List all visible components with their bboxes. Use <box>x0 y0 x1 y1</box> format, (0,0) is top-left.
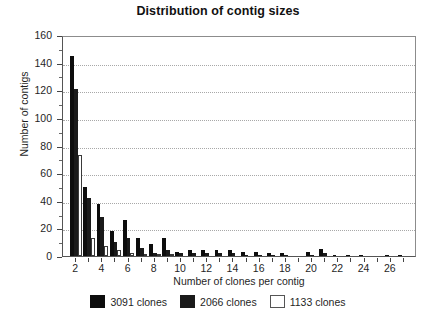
y-axis-tick-major <box>57 257 62 258</box>
y-axis-tick-major <box>57 229 62 230</box>
bar <box>346 255 350 256</box>
y-axis-tick-major <box>57 174 62 175</box>
x-axis-tick-label: 20 <box>299 262 323 274</box>
bar <box>333 255 337 256</box>
y-axis-tick-minor <box>59 243 62 244</box>
gridline <box>63 92 415 93</box>
y-axis-tick-major <box>57 147 62 148</box>
bar <box>232 253 236 256</box>
x-axis-tick-label: 10 <box>168 262 192 274</box>
bar <box>398 255 402 256</box>
y-axis-tick-minor <box>59 216 62 217</box>
x-axis-tick-label: 24 <box>352 262 376 274</box>
legend-swatch-icon <box>90 295 105 308</box>
bar <box>245 255 249 256</box>
legend-label: 3091 clones <box>110 296 167 308</box>
y-axis-tick-label: 100 <box>22 112 52 124</box>
legend-swatch-icon <box>180 295 195 308</box>
bar <box>170 254 174 256</box>
y-axis-tick-label: 0 <box>22 250 52 262</box>
gridline <box>63 175 415 176</box>
bar <box>310 255 314 256</box>
y-axis-tick-minor <box>59 105 62 106</box>
legend-item: 3091 clones <box>90 295 167 308</box>
bar <box>117 250 121 256</box>
y-axis-tick-label: 60 <box>22 167 52 179</box>
y-axis-tick-label: 40 <box>22 195 52 207</box>
y-axis-tick-major <box>57 119 62 120</box>
y-axis-tick-major <box>57 91 62 92</box>
y-axis-tick-label: 140 <box>22 57 52 69</box>
plot-area <box>62 36 416 257</box>
bar <box>258 255 262 256</box>
legend-item: 1133 clones <box>270 295 346 308</box>
gridline <box>63 230 415 231</box>
legend-swatch-icon <box>270 295 285 308</box>
bar <box>385 255 389 256</box>
y-axis-tick-label: 160 <box>22 29 52 41</box>
bar <box>78 155 82 256</box>
gridline <box>63 120 415 121</box>
x-axis-tick-label: 2 <box>63 262 87 274</box>
y-axis-tick-label: 80 <box>22 140 52 152</box>
bar <box>218 253 222 256</box>
legend-label: 1133 clones <box>290 296 346 308</box>
bar <box>284 255 288 256</box>
y-axis-tick-minor <box>59 50 62 51</box>
x-axis-tick-label: 6 <box>116 262 140 274</box>
bar <box>144 254 148 256</box>
bar <box>179 253 183 256</box>
legend-label: 2066 clones <box>200 296 257 308</box>
y-axis-tick-major <box>57 64 62 65</box>
bar <box>323 253 327 256</box>
x-axis-tick-label: 16 <box>247 262 271 274</box>
x-axis-tick-label: 8 <box>142 262 166 274</box>
y-axis-tick-minor <box>59 188 62 189</box>
x-axis-tick-label: 12 <box>194 262 218 274</box>
gridline <box>63 148 415 149</box>
bar <box>359 255 363 256</box>
x-axis-tick-label: 14 <box>220 262 244 274</box>
x-axis-tick <box>403 258 404 262</box>
y-axis-tick-major <box>57 202 62 203</box>
chart-legend: 3091 clones2066 clones1133 clones <box>0 295 436 308</box>
legend-item: 2066 clones <box>180 295 257 308</box>
bar <box>104 246 108 256</box>
y-axis-tick-minor <box>59 160 62 161</box>
bar <box>157 254 161 256</box>
bar <box>192 253 196 256</box>
y-axis-tick-label: 20 <box>22 222 52 234</box>
x-axis-tick-label: 18 <box>273 262 297 274</box>
gridline <box>63 65 415 66</box>
x-axis-tick-label: 22 <box>325 262 349 274</box>
x-axis-tick-label: 4 <box>89 262 113 274</box>
chart-title: Distribution of contig sizes <box>0 4 436 18</box>
x-axis-label: Number of clones per contig <box>62 275 416 287</box>
y-axis-tick-minor <box>59 77 62 78</box>
bar <box>205 253 209 256</box>
gridline <box>63 203 415 204</box>
chart-figure: Distribution of contig sizes Number of c… <box>0 0 436 331</box>
y-axis-tick-major <box>57 36 62 37</box>
bar <box>130 253 134 256</box>
bar <box>271 255 275 256</box>
y-axis-tick-label: 120 <box>22 84 52 96</box>
bar <box>91 238 95 256</box>
y-axis-tick-minor <box>59 133 62 134</box>
x-axis-tick-label: 26 <box>378 262 402 274</box>
